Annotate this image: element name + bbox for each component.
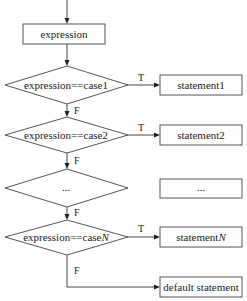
true-label: T — [138, 122, 144, 133]
default-statement-label: default statement — [163, 281, 238, 293]
statement2-box: statement2 — [160, 125, 242, 145]
statement-ellipsis-box: ... — [160, 179, 242, 198]
decision-case1-label: expression==case1 — [24, 79, 108, 91]
arrow-case1-false: F — [65, 104, 81, 117]
statement-ellipsis-label: ... — [197, 181, 206, 193]
false-label: F — [74, 265, 80, 276]
arrow-case1-true: T — [128, 72, 160, 88]
true-label: T — [138, 72, 144, 83]
false-label: F — [74, 207, 80, 218]
entry-arrow — [65, 0, 70, 24]
arrow-caseN-true: T — [128, 223, 160, 240]
decision-ellipsis: ... — [5, 169, 128, 207]
default-statement-box: default statement — [160, 277, 242, 297]
false-label: F — [74, 155, 80, 166]
true-label: T — [138, 223, 144, 234]
decision-caseN: expression==caseN — [5, 220, 128, 255]
decision-case2: expression==case2 — [5, 117, 128, 153]
statementN-label: statementN — [176, 231, 226, 243]
statementN-box: statementN — [160, 227, 242, 247]
statement1-box: statement1 — [160, 75, 242, 95]
false-label: F — [74, 105, 80, 116]
statement1-label: statement1 — [177, 79, 225, 91]
decision-case2-label: expression==case2 — [24, 129, 108, 141]
arrow-case2-false: F — [65, 153, 81, 169]
arrow-caseN-false-to-default: F — [67, 255, 160, 290]
decision-caseN-label: expression==caseN — [23, 231, 109, 243]
arrow-case2-true: T — [128, 122, 160, 138]
arrow-expression-to-case1 — [65, 44, 70, 66]
decision-ellipsis-label: ... — [62, 181, 71, 193]
expression-label: expression — [40, 28, 88, 40]
decision-case1: expression==case1 — [5, 66, 128, 104]
switch-flowchart: expression expression==case1 T statement… — [0, 0, 247, 301]
expression-box: expression — [23, 24, 105, 44]
arrow-ellipsis-false: F — [65, 207, 81, 220]
statement2-label: statement2 — [177, 129, 225, 141]
